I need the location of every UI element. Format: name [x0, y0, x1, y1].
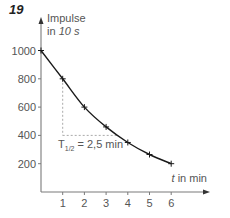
x-tick-label: 3 — [103, 197, 109, 209]
x-axis-arrow-icon — [203, 190, 210, 195]
x-tick-label: 2 — [81, 197, 87, 209]
x-tick-label: 5 — [146, 197, 152, 209]
y-axis-title-unit: in 10 s — [47, 25, 80, 37]
y-axis-arrow-icon — [39, 17, 44, 24]
y-tick-label: 200 — [18, 158, 36, 170]
y-tick-label: 800 — [18, 73, 36, 85]
x-axis-title: t in min — [172, 172, 207, 184]
y-tick-label: 400 — [18, 129, 36, 141]
axes — [38, 17, 210, 195]
x-tick-label: 1 — [60, 197, 66, 209]
decay-chart: 2004006008001000123456Impulsein 10 st in… — [0, 0, 230, 218]
x-tick-label: 6 — [168, 197, 174, 209]
x-tick-label: 4 — [125, 197, 131, 209]
y-tick-label: 600 — [18, 101, 36, 113]
y-tick-label: 1000 — [12, 45, 36, 57]
half-life-annotation: T1/2 = 2,5 min — [58, 138, 123, 152]
y-axis-title: Impulse — [47, 12, 86, 24]
